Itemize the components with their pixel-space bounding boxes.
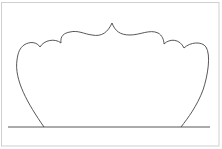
outline-drawing <box>0 0 222 149</box>
drawing-canvas <box>0 0 222 149</box>
scalloped-outline <box>17 23 209 127</box>
frame-border <box>2 3 220 147</box>
